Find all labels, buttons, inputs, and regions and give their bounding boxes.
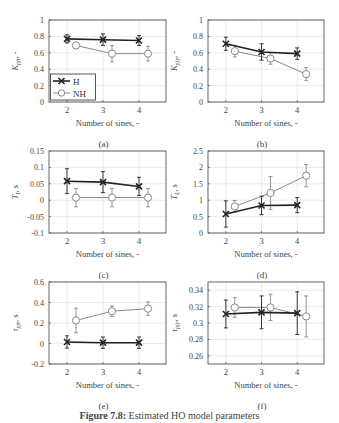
x-tick-label: 4 [295,367,300,377]
marker-circle-icon [144,50,151,57]
y-tick-label: 0.2 [193,82,203,91]
chart-panel-d: 23400.511.522.5Number of sines, -TL, s(d… [169,147,324,280]
chart-panel-c: 234-0.1-0.0500.050.10.15Number of sines,… [10,147,166,280]
y-tick-label: 1 [199,16,203,25]
y-tick-label: 0.32 [189,303,203,312]
marker-circle-icon [303,172,310,179]
marker-circle-icon [231,304,238,311]
y-tick-label: 2.5 [193,147,203,156]
y-tick-label: 0.6 [34,49,44,58]
caption-label: Figure 7.8: [80,410,126,421]
legend-label: H [73,77,80,87]
x-axis-label: Number of sines, - [76,380,139,390]
marker-circle-icon [303,71,310,78]
y-tick-label: -0.1 [31,229,44,238]
y-tick-label: 0.6 [34,278,44,287]
y-axis-label: Kpjt, - [10,51,21,71]
panel-label: (b) [257,139,268,149]
marker-circle-icon [72,42,79,49]
marker-circle-icon [144,305,151,312]
caption-text: Estimated HO model parameters [129,410,260,421]
y-tick-label: 0.1 [34,163,44,172]
panel-label: (d) [257,270,268,280]
marker-circle-icon [231,203,238,210]
x-tick-label: 4 [295,105,300,115]
chart-panel-b: 23400.20.40.60.81Number of sines, -Kpjy,… [169,16,324,149]
y-tick-label: 1 [199,196,203,205]
x-tick-label: 4 [137,236,142,246]
y-tick-label: -0.05 [27,213,44,222]
y-tick-label: 0.8 [193,32,203,41]
marker-circle-icon [267,55,274,62]
panel-label: (c) [99,270,109,280]
x-tick-label: 3 [259,367,263,377]
y-tick-label: 0.4 [34,299,44,308]
x-tick-label: 2 [224,367,228,377]
chart-panel-f: 2340.260.280.30.320.34Number of sines, -… [169,282,324,411]
marker-circle-icon [231,48,238,55]
x-tick-label: 4 [137,367,142,377]
x-tick-label: 3 [259,105,263,115]
legend-marker-circle-icon [58,90,64,96]
y-axis-label: Kpjy, - [169,51,180,72]
y-tick-label: 0.34 [189,286,203,295]
chart-panel-e: 234-0.200.20.40.6Number of sines, -τpjt,… [10,278,166,411]
figure-caption: Figure 7.8: Estimated HO model parameter… [0,410,339,421]
y-tick-label: 1 [40,16,44,25]
y-tick-label: 2 [199,163,203,172]
y-axis-label: τpjy, s [169,314,180,332]
y-tick-label: -0.2 [31,360,44,369]
y-axis-label: TL, s [169,184,180,200]
y-tick-label: 0.3 [193,319,203,328]
y-tick-label: 0 [199,98,203,107]
x-axis-label: Number of sines, - [234,249,297,259]
y-tick-label: 0.26 [189,352,203,361]
marker-circle-icon [72,194,79,201]
y-tick-label: 0.28 [189,335,203,344]
marker-circle-icon [72,317,79,324]
y-tick-label: 0.15 [30,147,44,156]
legend-label: NH [73,89,86,99]
x-tick-label: 2 [65,236,69,246]
y-tick-label: 0.5 [193,213,203,222]
y-tick-label: 0.8 [34,32,44,41]
x-axis-label: Number of sines, - [76,118,139,128]
y-tick-label: 0.05 [30,180,44,189]
figure: 23400.20.40.60.81Number of sines, -Kpjt,… [0,0,339,423]
x-tick-label: 2 [65,105,69,115]
legend: HNH [51,74,96,100]
marker-circle-icon [108,50,115,57]
x-axis-label: Number of sines, - [234,380,297,390]
y-tick-label: 1.5 [193,180,203,189]
y-tick-label: 0.2 [34,319,44,328]
y-tick-label: 0.6 [193,49,203,58]
marker-circle-icon [144,194,151,201]
marker-circle-icon [303,313,310,320]
marker-circle-icon [108,308,115,315]
x-tick-label: 3 [101,105,105,115]
y-tick-label: 0 [40,98,44,107]
x-tick-label: 3 [101,236,105,246]
x-axis-label: Number of sines, - [76,249,139,259]
x-axis-label: Number of sines, - [234,118,297,128]
marker-circle-icon [108,194,115,201]
y-axis-label: τpjt, s [10,315,21,332]
marker-circle-icon [267,189,274,196]
x-tick-label: 4 [137,105,142,115]
chart-panel-a: 23400.20.40.60.81Number of sines, -Kpjt,… [10,16,166,149]
y-tick-label: 0.4 [193,65,203,74]
x-tick-label: 3 [259,236,263,246]
y-tick-label: 0 [40,340,44,349]
y-axis-label: TI, s [10,185,21,199]
y-tick-label: 0 [40,196,44,205]
x-tick-label: 2 [224,236,228,246]
x-tick-label: 2 [65,367,69,377]
y-tick-label: 0.2 [34,82,44,91]
panel-label: (a) [99,139,109,149]
y-tick-label: 0.4 [34,65,44,74]
x-tick-label: 3 [101,367,105,377]
x-tick-label: 2 [224,105,228,115]
x-tick-label: 4 [295,236,300,246]
marker-circle-icon [267,304,274,311]
plot-frame [208,20,324,102]
